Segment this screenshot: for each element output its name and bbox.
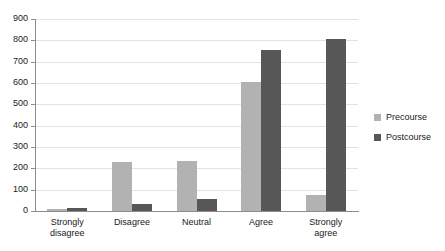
x-axis-label-line: Disagree (100, 217, 165, 228)
bar-chart: 0100200300400500600700800900 Stronglydis… (0, 0, 445, 251)
bar-precourse-disagree (112, 162, 132, 211)
gridline (35, 190, 358, 191)
y-axis-tick-label: 900 (0, 14, 28, 23)
x-axis-label-strongly-agree: Stronglyagree (293, 217, 358, 239)
y-axis-tick-label: 300 (0, 142, 28, 151)
y-axis-tick-label: 500 (0, 99, 28, 108)
y-axis-tick-label: 600 (0, 78, 28, 87)
y-axis-tick-label: 700 (0, 57, 28, 66)
plot-area (35, 19, 358, 211)
y-axis-line (35, 19, 36, 211)
gridline (35, 126, 358, 127)
gridline (35, 83, 358, 84)
bar-precourse-agree (241, 82, 261, 211)
x-axis-label-line: disagree (35, 228, 100, 239)
gridline (35, 168, 358, 169)
legend-swatch-icon (374, 114, 381, 121)
y-axis-tick-label: 400 (0, 121, 28, 130)
x-axis-label-line: Agree (229, 217, 294, 228)
bar-postcourse-agree (261, 50, 281, 211)
y-axis-tick-label: 200 (0, 163, 28, 172)
bar-precourse-neutral (177, 161, 197, 211)
bar-precourse-strongly-agree (306, 195, 326, 211)
x-axis-label-agree: Agree (229, 217, 294, 228)
bar-postcourse-neutral (197, 199, 217, 211)
y-axis-tick-label: 800 (0, 35, 28, 44)
x-axis-label-line: agree (293, 228, 358, 239)
x-axis-label-neutral: Neutral (164, 217, 229, 228)
legend-swatch-icon (374, 134, 381, 141)
x-axis-label-line: Strongly (35, 217, 100, 228)
legend-label: Postcourse (386, 133, 431, 142)
x-axis-label-strongly-disagree: Stronglydisagree (35, 217, 100, 239)
x-axis-label-line: Strongly (293, 217, 358, 228)
gridline (35, 19, 358, 20)
x-axis-label-disagree: Disagree (100, 217, 165, 228)
y-axis-tick-label: 0 (0, 206, 28, 215)
gridline (35, 104, 358, 105)
x-axis-label-line: Neutral (164, 217, 229, 228)
bar-postcourse-disagree (132, 204, 152, 211)
y-axis-tick-label: 100 (0, 185, 28, 194)
bar-postcourse-strongly-agree (326, 39, 346, 211)
gridline (35, 40, 358, 41)
legend: PrecoursePostcourse (374, 113, 444, 153)
x-axis-line (35, 211, 359, 212)
legend-item-postcourse[interactable]: Postcourse (374, 133, 444, 142)
gridline (35, 62, 358, 63)
legend-item-precourse[interactable]: Precourse (374, 113, 444, 122)
legend-label: Precourse (386, 113, 427, 122)
gridline (35, 147, 358, 148)
